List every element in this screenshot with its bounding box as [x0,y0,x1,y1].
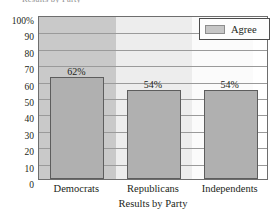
legend-swatch-agree [205,25,225,34]
bar [50,77,104,179]
legend-label-agree: Agree [231,24,257,35]
y-tick-label: 40 [0,114,34,124]
y-axis-tick-labels: 100%9080706050403020100 [0,10,34,186]
bar-value-label: 54% [126,79,180,90]
x-tick-label: Republicans [115,182,192,195]
y-tick-label: 30 [0,131,34,141]
x-axis-title: Results by Party [38,197,268,210]
bar-value-label: 62% [49,66,103,77]
gridline [39,50,267,51]
plot-area [38,16,268,180]
bar-chart: Results by Party 100%9080706050403020100… [0,0,279,219]
clipped-header-text: Results by Party [22,0,142,3]
x-tick-label: Democrats [38,182,115,195]
x-tick-label: Independents [191,182,268,195]
y-tick-label: 50 [0,98,34,108]
y-tick-label: 90 [0,32,34,42]
y-tick-label: 20 [0,147,34,157]
legend: Agree [199,18,270,40]
y-tick-label: 70 [0,65,34,75]
y-tick-label: 10 [0,164,34,174]
bar [127,90,181,179]
y-tick-label: 0 [0,180,34,190]
y-tick-label: 100% [0,16,34,26]
bar [204,90,258,179]
y-tick-label: 80 [0,49,34,59]
x-axis-category-labels: DemocratsRepublicansIndependents [38,182,268,196]
y-tick-label: 60 [0,82,34,92]
bar-value-label: 54% [203,79,257,90]
